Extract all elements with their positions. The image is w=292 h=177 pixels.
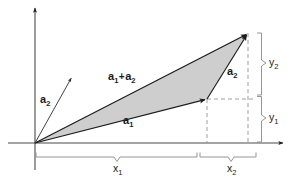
label-y2-sub: 2: [274, 62, 278, 71]
label-a2-translated: a2: [227, 66, 237, 77]
label-a1-sub: 1: [129, 120, 133, 129]
label-a1: a1: [123, 115, 133, 126]
label-x2: x2: [227, 163, 236, 174]
label-a2-translated-sub: 2: [233, 71, 237, 80]
vector-addition-diagram: a2 a1+a2 a1 a2 x1 x2 y2 y1: [0, 0, 292, 176]
label-x1-sub: 1: [118, 168, 122, 177]
bracket-y1: [257, 97, 266, 143]
label-x2-sub: 2: [232, 168, 236, 177]
bracket-x1: [36, 153, 197, 162]
label-x1: x1: [113, 163, 122, 174]
vector-sum-arrow: [35, 35, 246, 143]
diagram-canvas: [0, 0, 292, 176]
label-y1-sub: 1: [274, 117, 278, 126]
bracket-y2: [257, 33, 266, 95]
label-sum-sub1: 1: [114, 76, 118, 85]
label-a1-plus-a2: a1+a2: [108, 71, 135, 82]
bracket-x2: [200, 153, 256, 162]
label-sum-sub2: 2: [131, 76, 135, 85]
label-a2-origin: a2: [40, 94, 50, 105]
label-y2: y2: [269, 57, 278, 68]
label-y1: y1: [269, 112, 278, 123]
label-a2-origin-sub: 2: [46, 99, 50, 108]
